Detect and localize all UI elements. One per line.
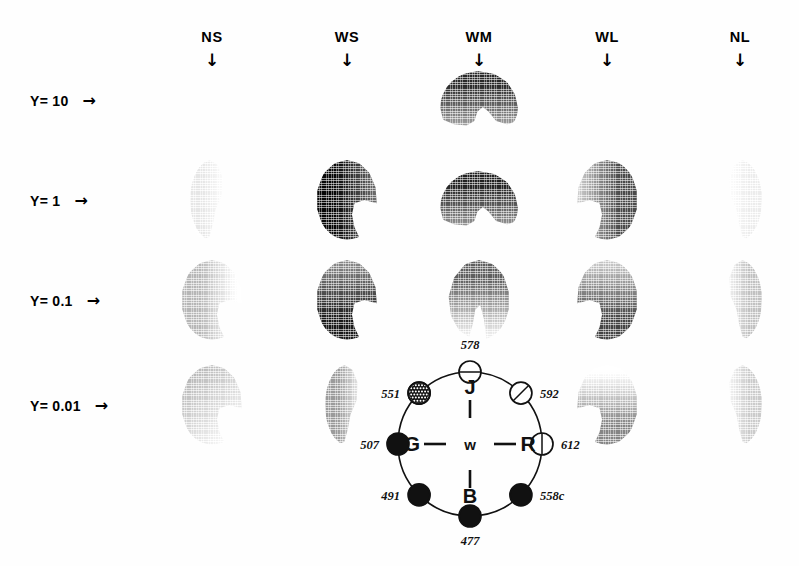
- halftone-blob: [181, 365, 243, 445]
- wavelength-label-551: 551: [381, 387, 400, 401]
- column-header-wm: WM↓: [439, 30, 519, 69]
- blob-wm-y10: [440, 71, 518, 129]
- center-letter-w: w: [463, 436, 476, 453]
- halftone-blob: [316, 260, 378, 340]
- column-header-label: NL: [700, 30, 780, 45]
- down-arrow-icon: ↓: [439, 52, 519, 69]
- color-circle-diagram: JBGRw 578592612558c477491507551: [365, 352, 575, 542]
- halftone-blob: [448, 260, 510, 340]
- blob-shading: [325, 365, 369, 445]
- figure-canvas: NS↓WS↓WM↓WL↓NL↓ Y= 10→Y= 1→Y= 0.1→Y= 0.0…: [0, 0, 799, 566]
- blob-wl-y1: [576, 160, 638, 240]
- halftone-blob: [440, 171, 518, 229]
- wavelength-node-592: [510, 382, 532, 404]
- halftone-blob: [576, 160, 638, 240]
- blob-shading: [718, 260, 762, 340]
- halftone-blob: [440, 71, 518, 129]
- row-label-10: Y= 10→: [30, 91, 96, 110]
- blob-nl-y0.01: [718, 365, 762, 445]
- blob-shading: [576, 365, 638, 445]
- blob-shading: [718, 365, 762, 445]
- blob-shading: [190, 160, 234, 240]
- blob-shading: [181, 260, 243, 340]
- wavelength-label-491: 491: [380, 489, 400, 503]
- down-arrow-icon: ↓: [700, 52, 780, 69]
- blob-wl-y0.01: [576, 365, 638, 445]
- blob-wl-y0.1: [576, 260, 638, 340]
- halftone-blob: [190, 160, 234, 240]
- halftone-blob: [576, 260, 638, 340]
- row-label-0.01: Y= 0.01→: [30, 396, 108, 415]
- blob-ns-y0.01: [181, 365, 243, 445]
- blob-shading: [181, 365, 243, 445]
- blob-nl-y0.1: [718, 260, 762, 340]
- axis-letter-g: G: [404, 432, 420, 455]
- blob-wm-y0.1: [448, 260, 510, 340]
- right-arrow-icon: →: [74, 191, 87, 210]
- axis-letter-b: B: [463, 485, 477, 507]
- blob-shading: [316, 260, 378, 340]
- blob-shading: [718, 160, 762, 240]
- column-header-label: WL: [567, 30, 647, 45]
- column-header-wl: WL↓: [567, 30, 647, 69]
- blob-shading: [316, 160, 378, 240]
- down-arrow-icon: ↓: [567, 52, 647, 69]
- halftone-blob: [576, 365, 638, 445]
- column-header-label: WS: [307, 30, 387, 45]
- blob-wm-y1: [440, 171, 518, 229]
- wavelength-label-578: 578: [461, 338, 481, 352]
- axis-letter-j: J: [464, 376, 475, 398]
- column-header-label: WM: [439, 30, 519, 45]
- blob-shading: [576, 160, 638, 240]
- right-arrow-icon: →: [82, 91, 95, 110]
- right-arrow-icon: →: [87, 291, 100, 310]
- blob-shading: [440, 71, 518, 129]
- row-label-text: Y= 0.01: [30, 398, 81, 414]
- column-header-label: NS: [172, 30, 252, 45]
- column-header-nl: NL↓: [700, 30, 780, 69]
- blob-ws-y1: [316, 160, 378, 240]
- row-label-text: Y= 0.1: [30, 293, 73, 309]
- column-header-ws: WS↓: [307, 30, 387, 69]
- blob-shading: [448, 260, 510, 340]
- right-arrow-icon: →: [95, 396, 108, 415]
- blob-nl-y1: [718, 160, 762, 240]
- down-arrow-icon: ↓: [307, 52, 387, 69]
- wavelength-label-558c: 558c: [540, 489, 565, 503]
- halftone-blob: [181, 260, 243, 340]
- wavelength-label-477: 477: [460, 534, 481, 548]
- axis-letter-r: R: [520, 432, 535, 455]
- wavelength-node-491: [408, 484, 430, 506]
- row-label-text: Y= 1: [30, 193, 60, 209]
- blob-ns-y0.1: [181, 260, 243, 340]
- column-header-ns: NS↓: [172, 30, 252, 69]
- halftone-blob: [718, 365, 762, 445]
- wavelength-label-592: 592: [540, 387, 559, 401]
- halftone-blob: [325, 365, 369, 445]
- down-arrow-icon: ↓: [172, 52, 252, 69]
- wavelength-label-507: 507: [360, 438, 380, 452]
- row-label-0.1: Y= 0.1→: [30, 291, 100, 310]
- halftone-blob: [718, 160, 762, 240]
- wavelength-label-612: 612: [561, 438, 580, 452]
- row-label-1: Y= 1→: [30, 191, 88, 210]
- wavelength-node-477: [459, 505, 481, 527]
- blob-shading: [576, 260, 638, 340]
- blob-ns-y1: [190, 160, 234, 240]
- blob-shading: [440, 171, 518, 229]
- blob-ws-y0.01: [325, 365, 369, 445]
- wavelength-node-558c: [510, 484, 532, 506]
- blob-ws-y0.1: [316, 260, 378, 340]
- halftone-blob: [718, 260, 762, 340]
- row-label-text: Y= 10: [30, 93, 68, 109]
- halftone-blob: [316, 160, 378, 240]
